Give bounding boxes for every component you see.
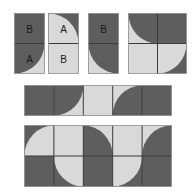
tile-label: B [60,54,67,65]
tile-cell: A [49,14,79,44]
tile-cell [25,126,54,157]
tile-cell [83,86,112,116]
tile-cell [83,156,112,187]
tile-cell [25,86,54,116]
tile-cell [142,86,171,116]
grid-2x2 [128,13,187,74]
tile-cell [129,44,158,74]
tile-cell: B [15,14,45,44]
tile-cell [129,14,158,44]
tile-cell [113,156,142,187]
tile-label: A [26,54,33,65]
tile-cell [142,156,171,187]
tile-cell: B [89,14,119,44]
tile-cell: B [49,44,79,74]
card-1: BA [14,13,45,74]
tile-cell [25,156,54,187]
tile-cell [142,126,171,157]
tile-cell [113,126,142,157]
tile-label: A [60,24,67,35]
tile-cell [158,14,187,44]
tile-cell [89,44,119,74]
grid-5x2 [24,125,172,187]
card-2: AB [48,13,79,74]
tile-cell [83,126,112,157]
tile-cell: A [15,44,45,74]
tile-cell [54,86,83,116]
tile-cell [54,156,83,187]
tile-cell [113,86,142,116]
tile-label: B [100,24,107,35]
card-3: B [88,13,119,74]
tile-cell [158,44,187,74]
strip-5x1 [24,85,172,116]
tile-cell [54,126,83,157]
tile-label: B [26,24,33,35]
